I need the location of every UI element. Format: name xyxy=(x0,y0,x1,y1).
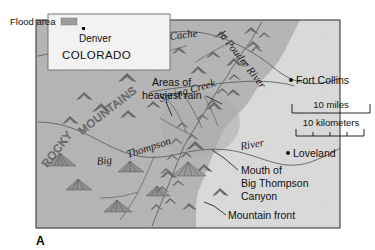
inset-city-label-denver: Denver xyxy=(79,33,112,44)
inset-legend-label: Flood area xyxy=(10,16,56,27)
scale-bar-miles-label: 10 miles xyxy=(313,99,349,110)
figure-label: A xyxy=(36,234,45,248)
annotation-canyon-mouth-line1: Mouth of xyxy=(241,164,282,176)
scale-bars: 10 miles 10 kilometers xyxy=(286,98,375,136)
inset-city-dot-denver xyxy=(82,27,85,30)
city-dot-loveland xyxy=(286,151,290,155)
city-dot-fort-collins xyxy=(289,78,293,82)
scale-bar-kilometers-label: 10 kilometers xyxy=(303,117,360,128)
annotation-heaviest-rain-line2: heaviest rain xyxy=(142,89,202,101)
city-label-fort-collins: Fort Collins xyxy=(296,74,349,86)
annotation-heaviest-rain-line1: Areas of xyxy=(152,76,191,88)
inset-state-label-colorado: COLORADO xyxy=(62,49,131,61)
flood-area-swatch xyxy=(61,18,77,25)
river-label-big: Big xyxy=(96,153,113,167)
figure-panel: Cache la Poudre River Spring Creek Big T… xyxy=(0,0,375,250)
map-figure: Cache la Poudre River Spring Creek Big T… xyxy=(0,0,375,250)
city-label-loveland: Loveland xyxy=(293,147,336,159)
annotation-mountain-front-label: Mountain front xyxy=(228,209,295,221)
annotation-canyon-mouth-line3: Canyon xyxy=(241,190,277,202)
inset-locator-map: Flood area Denver COLORADO xyxy=(10,14,170,70)
annotation-canyon-mouth-line2: Big Thompson xyxy=(241,177,309,189)
